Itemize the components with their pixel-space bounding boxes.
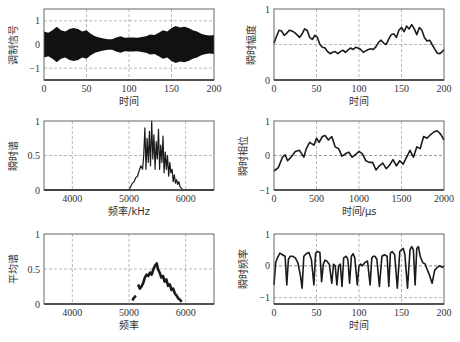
y-axis-label: 瞬时频率 (237, 249, 249, 289)
y-axis-label: 平均谱 (7, 254, 19, 284)
y-tick-label: 0.5 (28, 150, 41, 161)
chart-instantaneous-phase: 0500100015002000−101时间/μs瞬时相位 (237, 116, 454, 218)
x-axis-label: 频率 (119, 319, 139, 331)
x-axis-label: 时间 (349, 319, 369, 331)
y-tick-label: 0 (35, 185, 40, 196)
x-tick-label: 200 (437, 83, 452, 94)
x-axis-label: 时间 (119, 95, 139, 107)
x-tick-label: 150 (394, 307, 409, 318)
x-tick-label: 0 (272, 83, 277, 94)
grid-lines (274, 121, 444, 190)
x-tick-label: 100 (352, 307, 367, 318)
y-axis-label: 瞬时谱 (7, 141, 19, 171)
x-tick-label: 2000 (434, 193, 454, 204)
chart-modulated-signal: 050100150200−101时间调制信号 (7, 9, 222, 107)
grid-lines (44, 234, 214, 304)
y-tick-label: 0.5 (28, 264, 41, 275)
chart-average-spectrum: 40005000600000.51频率平均谱 (7, 229, 214, 332)
x-tick-label: 5000 (119, 307, 139, 318)
y-tick-label: 0 (35, 39, 40, 50)
grid-lines (44, 121, 214, 190)
y-tick-label: −1 (259, 185, 270, 196)
y-axis-label: 瞬时幅度 (245, 25, 257, 65)
x-tick-label: 1500 (392, 193, 412, 204)
y-axis-label: 瞬时相位 (237, 136, 249, 176)
x-tick-label: 0 (42, 83, 47, 94)
x-tick-label: 1000 (349, 193, 369, 204)
y-tick-label: 0 (265, 150, 270, 161)
chart-instantaneous-amplitude: 05010015020001时间瞬时幅度 (245, 4, 452, 108)
x-tick-label: 6000 (176, 193, 196, 204)
x-tick-label: 5000 (119, 193, 139, 204)
x-tick-label: 150 (394, 83, 409, 94)
figure-canvas: 050100150200−101时间调制信号05010015020001时间瞬时… (0, 0, 460, 342)
chart-instantaneous-spectrum: 40005000600000.51频率/kHz瞬时谱 (7, 116, 214, 218)
x-tick-label: 100 (122, 83, 137, 94)
y-axis-label: 调制信号 (7, 25, 19, 65)
y-tick-label: 1 (35, 229, 40, 240)
y-tick-label: 1 (35, 15, 40, 26)
x-axis-label: 时间/μs (342, 205, 377, 217)
y-tick-label: 1 (265, 116, 270, 127)
y-tick-label: −1 (29, 63, 40, 74)
chart-instantaneous-frequency: 050100150200−101时间瞬时频率 (237, 229, 452, 332)
x-tick-label: 50 (312, 307, 322, 318)
y-tick-label: 1 (265, 229, 270, 240)
y-tick-label: −1 (259, 292, 270, 303)
x-axis-label: 频率/kHz (108, 205, 150, 217)
y-tick-label: 0 (265, 260, 270, 271)
y-tick-label: 0 (35, 299, 40, 310)
x-tick-label: 4000 (62, 193, 82, 204)
x-tick-label: 0 (272, 307, 277, 318)
x-tick-label: 0 (272, 193, 277, 204)
grid-lines (274, 9, 444, 80)
x-tick-label: 50 (312, 83, 322, 94)
x-tick-label: 6000 (176, 307, 196, 318)
x-tick-label: 100 (352, 83, 367, 94)
x-axis-label: 时间 (349, 95, 369, 107)
data-line (132, 296, 135, 301)
x-tick-label: 500 (309, 193, 324, 204)
x-tick-label: 200 (437, 307, 452, 318)
y-tick-label: 1 (35, 116, 40, 127)
x-tick-label: 50 (82, 83, 92, 94)
x-tick-label: 200 (207, 83, 222, 94)
x-tick-label: 150 (164, 83, 179, 94)
x-tick-label: 4000 (62, 307, 82, 318)
y-tick-label: 0 (265, 75, 270, 86)
y-tick-label: 1 (265, 4, 270, 15)
